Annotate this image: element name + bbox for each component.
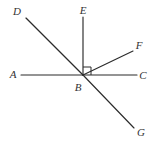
point-label-a: A xyxy=(10,69,17,80)
ray-bg xyxy=(83,75,134,128)
geometry-canvas xyxy=(0,0,154,145)
point-label-e: E xyxy=(80,5,87,16)
point-label-c: C xyxy=(139,70,146,81)
point-label-g: G xyxy=(137,127,145,138)
point-label-f: F xyxy=(136,40,143,51)
point-label-d: D xyxy=(13,6,21,17)
geometry-figure: A B C D E F G xyxy=(0,0,154,145)
point-label-b: B xyxy=(75,82,82,93)
ray-bd xyxy=(26,18,83,75)
